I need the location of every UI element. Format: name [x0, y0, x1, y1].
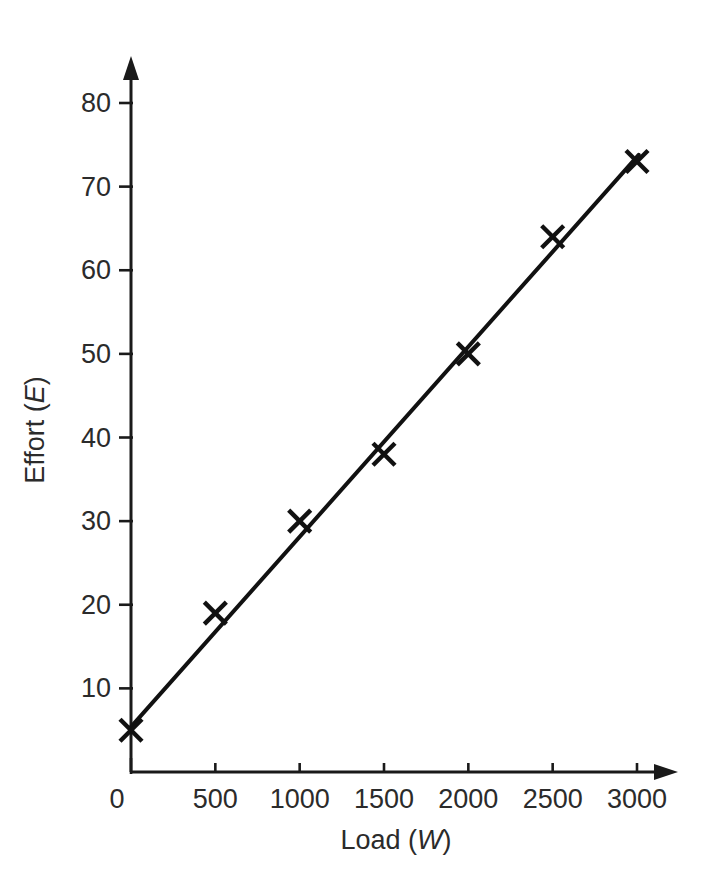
y-tick-label-10: 10 [81, 673, 111, 703]
x-tick-label-2500: 2500 [523, 784, 583, 814]
y-tick-label-20: 20 [81, 590, 111, 620]
y-tick-label-80: 80 [81, 88, 111, 118]
chart-root: 050010001500200025003000 102030405060708… [0, 0, 722, 876]
y-tick-label-60: 60 [81, 255, 111, 285]
y-axis-title: Effort (E) [20, 376, 50, 484]
x-axis-title: Load (W) [340, 825, 451, 855]
x-tick-label-2000: 2000 [438, 784, 498, 814]
x-tick-label-1000: 1000 [270, 784, 330, 814]
x-tick-label-0: 0 [109, 784, 124, 814]
y-tick-label-30: 30 [81, 506, 111, 536]
effort-load-scatter-chart: 050010001500200025003000 102030405060708… [0, 0, 722, 876]
x-axis-title-symbol: W [417, 825, 445, 855]
y-tick-label-70: 70 [81, 172, 111, 202]
y-axis-title-symbol: E [20, 384, 50, 403]
y-tick-label-50: 50 [81, 339, 111, 369]
x-tick-label-1500: 1500 [354, 784, 414, 814]
x-tick-label-500: 500 [193, 784, 238, 814]
x-tick-label-3000: 3000 [607, 784, 667, 814]
y-tick-label-40: 40 [81, 423, 111, 453]
